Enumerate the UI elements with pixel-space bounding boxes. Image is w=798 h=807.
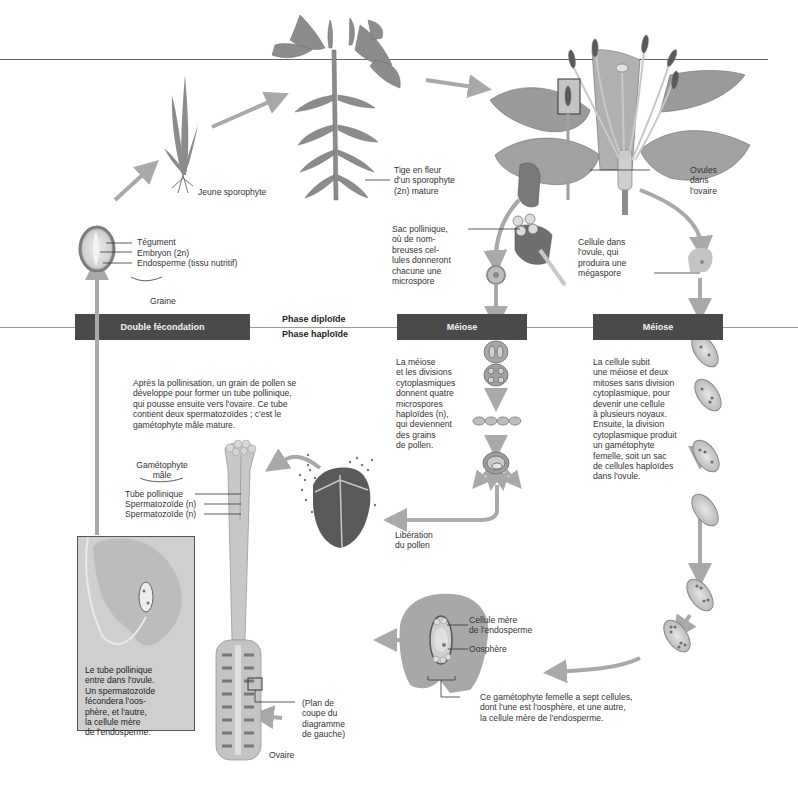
microspores <box>473 417 521 425</box>
tegument-label: Tégument <box>137 237 237 248</box>
ovule-cell <box>688 248 712 272</box>
seed-illustration <box>80 227 114 271</box>
male-gametophyte-parts: Tube pollinique Spermatozoïde (n) Sperma… <box>125 489 196 519</box>
male-gametophyte-heading: Gamétophyte mâle <box>127 460 197 481</box>
pollination-text: Après la pollinisation, un grain de poll… <box>133 378 296 430</box>
phase-diploid-label: Phase diploïde <box>282 314 346 324</box>
pollen-release-label: Libération du pollen <box>395 530 433 551</box>
ovules-in-ovary-label: Ovules dans l'ovaire <box>690 165 717 196</box>
seed-parts-labels: Tégument Embryon (2n) Endosperme (tissu … <box>137 237 237 269</box>
endosperm-mother-cell-label: Cellule mère de l'endosperme <box>469 615 532 636</box>
male-meiosis-bar: Méiose <box>397 314 527 340</box>
embryo-label: Embryon (2n) <box>137 248 237 259</box>
pollen-release-illustration <box>299 454 376 548</box>
section-plane-label: (Plan de coupe du diagramme de gauche) <box>302 698 345 740</box>
young-sporophyte-label: Jeune sporophyte <box>198 187 266 197</box>
sperm-label-1: Spermatozoïde (n) <box>125 499 196 509</box>
egg-cell-label: Oosphère <box>469 644 507 654</box>
pollen-sac-label: Sac pollinique, où de nom- breuses cel- … <box>392 224 451 286</box>
ovary-label: Ovaire <box>269 750 294 760</box>
fertilization-arrow-shaft <box>95 272 99 535</box>
phase-haploid-label: Phase haploïde <box>282 329 348 339</box>
double-fertilization-bar: Double fécondation <box>75 314 250 340</box>
mature-sporophyte-illustration <box>272 15 400 200</box>
female-meiosis-text: La cellule subit une méiose et deux mito… <box>593 357 677 482</box>
male-meiosis-cells <box>484 341 508 386</box>
pollen-tube-label: Tube pollinique <box>125 489 196 499</box>
pollen-grain <box>483 452 509 474</box>
young-sporophyte-illustration <box>164 75 198 193</box>
male-meiosis-text: La méiose et les divisions cytoplasmique… <box>396 357 455 451</box>
sperm-label-2: Spermatozoïde (n) <box>125 509 196 519</box>
ovule-cell-label: Cellule dans l'ovule, qui produira une m… <box>578 237 626 279</box>
seed-label: Graine <box>150 296 176 306</box>
mature-sporophyte-label: Tige en fleur d'un sporophyte (2n) matur… <box>394 165 455 196</box>
endosperm-label: Endosperme (tissu nutritif) <box>137 258 237 269</box>
female-meiosis-bar: Méiose <box>593 314 723 340</box>
pistil-illustration <box>216 440 262 760</box>
inset-text: Le tube pollinique entre dans l'ovule. U… <box>85 665 155 738</box>
female-gametophyte-text: Ce gamétophyte femelle a sept cellules, … <box>480 692 632 723</box>
